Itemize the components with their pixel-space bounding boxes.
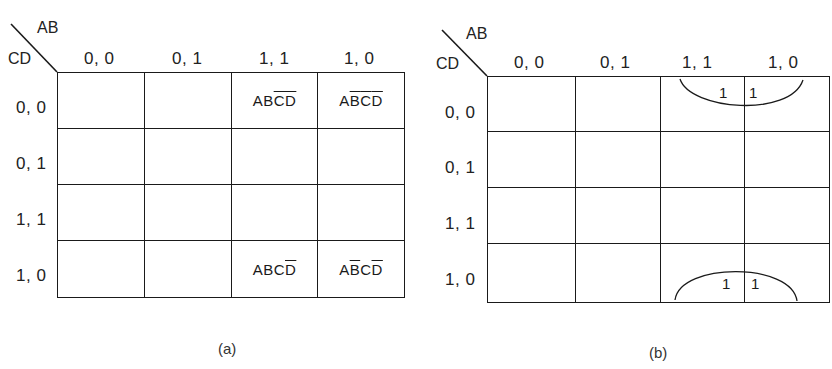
kmap-cell: ABCD xyxy=(232,241,318,298)
kmap-cell xyxy=(318,185,405,241)
kmap-cell: ABCD xyxy=(318,241,405,298)
minterm-label: ABCD xyxy=(253,261,297,278)
col-header: 1, 1 xyxy=(682,53,712,73)
row-header: 1, 1 xyxy=(16,210,46,230)
minterm-label: ABCD xyxy=(339,261,383,278)
row-variable-label: CD xyxy=(436,55,459,73)
kmap-cell xyxy=(488,77,576,132)
col-variable-label: AB xyxy=(466,25,487,43)
col-header: 1, 0 xyxy=(344,49,374,69)
kmap-cell xyxy=(145,185,232,241)
figure-caption: (a) xyxy=(218,340,236,357)
kmap-cell xyxy=(488,132,576,188)
kmap-cell xyxy=(232,129,318,185)
kmap-cell xyxy=(576,188,661,244)
col-header: 0, 0 xyxy=(514,53,544,73)
col-header: 1, 0 xyxy=(768,53,798,73)
minterm-one: 1 xyxy=(751,275,759,292)
minterm-one: 1 xyxy=(719,84,727,101)
kmap-cell xyxy=(318,129,405,185)
row-header: 0, 0 xyxy=(445,103,475,123)
kmap-cell xyxy=(576,77,661,132)
kmap-cell xyxy=(488,188,576,244)
kmap-cell xyxy=(232,185,318,241)
kmap-cell xyxy=(661,188,745,244)
figure-caption: (b) xyxy=(649,344,667,361)
minterm-label: ABCD xyxy=(339,92,383,109)
kmap-cell xyxy=(661,244,745,303)
kmap-cell: ABCD xyxy=(318,73,405,129)
col-header: 0, 0 xyxy=(84,49,114,69)
kmap-cell xyxy=(145,73,232,129)
kmap-cell xyxy=(745,132,830,188)
kmap-cell xyxy=(661,77,745,132)
col-variable-label: AB xyxy=(37,19,58,37)
kmap-cell xyxy=(661,132,745,188)
kmap-cell xyxy=(58,73,145,129)
kmap-cell xyxy=(576,244,661,303)
col-header: 0, 1 xyxy=(172,49,202,69)
row-header: 0, 1 xyxy=(16,154,46,174)
col-header: 1, 1 xyxy=(259,49,289,69)
kmap-grid-a: ABCD ABCD ABCD ABCD xyxy=(57,72,405,298)
minterm-one: 1 xyxy=(749,84,757,101)
kmap-cell: ABCD xyxy=(232,73,318,129)
col-header: 0, 1 xyxy=(600,53,630,73)
row-header: 0, 1 xyxy=(445,158,475,178)
row-header: 1, 0 xyxy=(16,266,46,286)
kmap-cell xyxy=(576,132,661,188)
row-variable-label: CD xyxy=(8,50,31,68)
kmap-cell xyxy=(58,241,145,298)
kmap-cell xyxy=(145,129,232,185)
kmap-cell xyxy=(58,129,145,185)
row-header: 1, 1 xyxy=(445,214,475,234)
kmap-cell xyxy=(488,244,576,303)
kmap-grid-b xyxy=(487,76,830,303)
row-header: 1, 0 xyxy=(445,270,475,290)
kmap-cell xyxy=(145,241,232,298)
row-header: 0, 0 xyxy=(16,98,46,118)
kmap-cell xyxy=(745,244,830,303)
minterm-one: 1 xyxy=(722,275,730,292)
kmap-cell xyxy=(745,188,830,244)
minterm-label: ABCD xyxy=(253,92,297,109)
kmap-cell xyxy=(58,185,145,241)
